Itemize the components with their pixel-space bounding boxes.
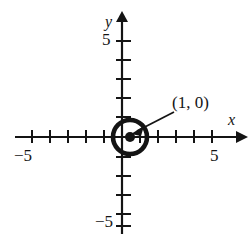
y-axis-ticks-negative <box>116 157 131 226</box>
coordinate-plane-figure: 5 −5 5 −5 y x (1, 0) <box>0 0 249 248</box>
x-axis-tick-label-negative-5: −5 <box>14 147 32 164</box>
y-axis-tick-label-negative-5: −5 <box>95 213 113 230</box>
point-coordinate-label: (1, 0) <box>172 94 209 111</box>
y-axis-tick-label-positive-5: 5 <box>102 31 111 48</box>
x-axis-tick-label-positive-5: 5 <box>210 147 219 164</box>
y-axis-ticks-positive <box>116 41 131 117</box>
x-axis-arrowhead <box>236 131 248 143</box>
y-axis-name-label: y <box>105 14 112 30</box>
graph-canvas <box>0 0 249 248</box>
x-axis-name-label: x <box>228 112 235 128</box>
y-axis-arrowhead <box>116 11 128 22</box>
